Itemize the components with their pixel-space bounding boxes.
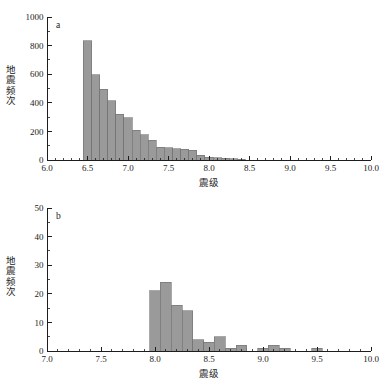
- panel-b-plot: 7.07.58.08.59.09.510.001020304050b震级地震频次: [0, 195, 383, 390]
- y-tick-label: 30: [35, 260, 45, 270]
- histogram-bar: [171, 305, 182, 351]
- histogram-bar: [132, 130, 140, 160]
- x-tick-label: 9.0: [257, 354, 269, 364]
- y-tick-label: 200: [30, 127, 44, 137]
- histogram-bar: [92, 75, 100, 160]
- y-tick-label: 20: [35, 289, 45, 299]
- histogram-bar: [116, 114, 124, 160]
- y-tick-label: 50: [35, 203, 45, 213]
- x-axis-title: 震级: [199, 368, 219, 379]
- x-axis-title: 震级: [199, 177, 219, 188]
- bars-group: [150, 282, 323, 351]
- y-axis-title-char: 震: [6, 265, 16, 276]
- histogram-bar: [140, 135, 148, 160]
- x-tick-label: 7.5: [95, 354, 107, 364]
- y-axis-title: 地震频次: [6, 255, 16, 297]
- x-tick-label: 8.5: [244, 163, 256, 173]
- panel-a-plot: 6.06.57.07.58.08.59.09.510.0020040060080…: [0, 0, 383, 195]
- axes-group: [47, 208, 371, 351]
- histogram-bar: [100, 89, 108, 160]
- y-tick-label: 600: [30, 69, 44, 79]
- y-axis-title-char: 地: [6, 64, 16, 75]
- y-tick-label: 1000: [26, 12, 45, 22]
- x-tick-label: 10.0: [363, 354, 379, 364]
- x-tick-label: 9.0: [284, 163, 296, 173]
- x-tick-label: 7.5: [163, 163, 175, 173]
- x-tick-label: 6.5: [82, 163, 94, 173]
- histogram-bar: [148, 140, 156, 160]
- x-tick-label: 9.5: [311, 354, 323, 364]
- y-axis-title-char: 频: [6, 276, 16, 287]
- histogram-bar: [150, 291, 161, 351]
- y-axis-title-char: 震: [6, 74, 16, 85]
- y-axis-title-char: 次: [6, 286, 16, 297]
- figure-container: 6.06.57.07.58.08.59.09.510.0020040060080…: [0, 0, 383, 390]
- y-axis-title-char: 地: [6, 255, 16, 266]
- histogram-bar: [108, 101, 116, 160]
- x-tick-label: 8.0: [203, 163, 215, 173]
- bars-group: [83, 41, 245, 161]
- x-tick-label: 8.5: [203, 354, 215, 364]
- histogram-bar: [124, 118, 132, 160]
- panel-letter: b: [56, 211, 61, 221]
- histogram-bar: [83, 41, 91, 160]
- y-tick-label: 0: [39, 155, 44, 165]
- histogram-bar: [160, 282, 171, 351]
- x-tick-label: 10.0: [363, 163, 379, 173]
- y-axis-title-char: 次: [6, 95, 16, 106]
- panel-letter: a: [56, 20, 61, 30]
- y-tick-label: 800: [30, 41, 44, 51]
- histogram-bar: [182, 311, 193, 351]
- x-tick-label: 7.0: [122, 163, 134, 173]
- y-axis-title-char: 频: [6, 85, 16, 96]
- y-tick-label: 400: [30, 98, 44, 108]
- y-tick-label: 40: [35, 232, 45, 242]
- y-tick-label: 0: [39, 346, 44, 356]
- panel-b: 7.07.58.08.59.09.510.001020304050b震级地震频次: [0, 195, 383, 390]
- x-tick-label: 9.5: [325, 163, 337, 173]
- y-tick-label: 10: [35, 318, 45, 328]
- panel-a: 6.06.57.07.58.08.59.09.510.0020040060080…: [0, 0, 383, 195]
- y-axis-title: 地震频次: [6, 64, 16, 106]
- x-tick-label: 8.0: [149, 354, 161, 364]
